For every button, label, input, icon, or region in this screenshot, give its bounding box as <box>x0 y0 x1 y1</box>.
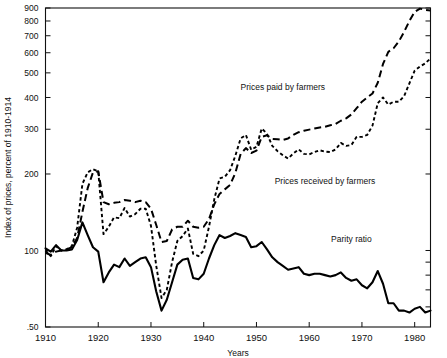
y-tick-label: 200 <box>24 169 38 179</box>
y-tick-label: 900 <box>24 3 38 13</box>
x-tick-label: 1960 <box>299 332 320 343</box>
x-axis-title: Years <box>227 348 248 358</box>
x-tick-label: 1980 <box>404 332 425 343</box>
y-tick-label: 300 <box>24 124 38 134</box>
y-tick-label: 600 <box>24 48 38 58</box>
y-tick-label: 700 <box>24 31 38 41</box>
x-tick-label: 1930 <box>140 332 161 343</box>
x-tick-label: 1970 <box>351 332 372 343</box>
price-index-chart: 900800700600500400300200100.501910192019… <box>0 0 447 358</box>
y-tick-label: 100 <box>24 246 38 256</box>
y-tick-label: 400 <box>24 93 38 103</box>
annotation-parity-ratio: Parity ratio <box>331 234 372 244</box>
y-tick-label: .50 <box>27 322 39 332</box>
x-tick-label: 1950 <box>246 332 267 343</box>
chart-labels: 900800700600500400300200100.501910192019… <box>0 0 447 358</box>
x-tick-label: 1940 <box>193 332 214 343</box>
y-tick-label: 800 <box>24 16 38 26</box>
x-tick-label: 1910 <box>35 332 56 343</box>
y-tick-label: 500 <box>24 68 38 78</box>
annotation-prices-received: Prices received by farmers <box>275 176 376 186</box>
x-tick-label: 1920 <box>88 332 109 343</box>
annotation-prices-paid: Prices paid by farmers <box>241 82 326 92</box>
y-axis-title: Index of prices, percent of 1910-1914 <box>3 97 13 238</box>
